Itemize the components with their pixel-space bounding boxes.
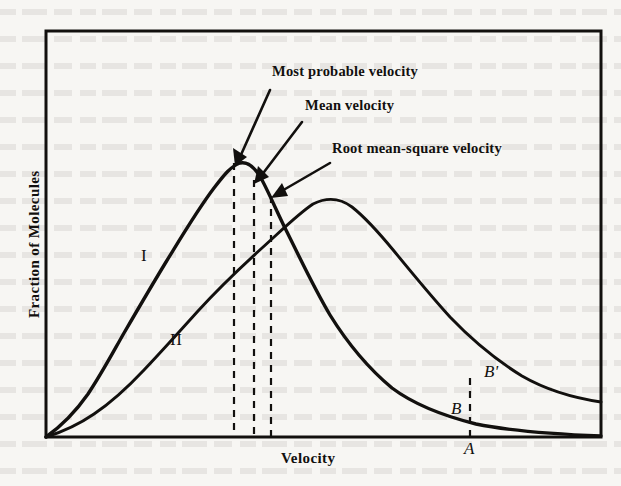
plot-frame <box>46 31 601 437</box>
annotation-label-mean-velocity: Mean velocity <box>305 97 394 114</box>
arrow-root-mean-square-velocity <box>271 163 330 198</box>
curve-label-II: II <box>170 330 182 350</box>
point-label-A: A <box>464 439 474 459</box>
distribution-curve-I <box>46 163 601 437</box>
annotation-label-root-mean-square-velocity: Root mean-square velocity <box>332 140 502 157</box>
point-label-B: B <box>451 399 461 419</box>
y-axis-title: Fraction of Molecules <box>26 170 43 318</box>
annotation-label-most-probable-velocity: Most probable velocity <box>272 63 418 80</box>
figure-container: Fraction of Molecules Velocity Most prob… <box>0 0 621 486</box>
point-label-B-prime: B' <box>484 362 498 382</box>
curve-label-I: I <box>141 246 147 266</box>
arrow-mean-velocity <box>254 122 302 184</box>
arrow-most-probable-velocity <box>233 90 270 166</box>
x-axis-title: Velocity <box>281 450 335 467</box>
distribution-curve-II <box>46 199 601 437</box>
